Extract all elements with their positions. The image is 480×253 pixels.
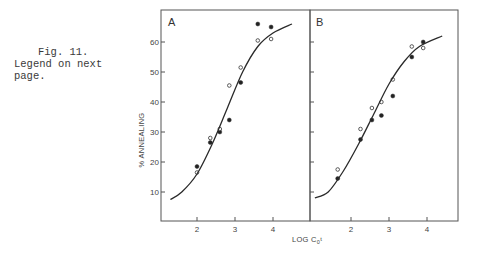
- open-data-point: [228, 84, 232, 88]
- panel-b-label: B: [316, 16, 323, 28]
- x-tick-label: 4: [425, 225, 430, 234]
- y-tick-label: 10: [150, 188, 159, 197]
- axis-ticks: 102030405060234234: [150, 38, 430, 234]
- open-data-point: [336, 168, 340, 172]
- fitted-curve: [170, 24, 292, 200]
- x-axis-title: LOG C0t: [292, 235, 322, 245]
- x-tick-label: 3: [233, 225, 238, 234]
- panel-b-plot: [315, 36, 442, 198]
- open-data-point: [421, 46, 425, 50]
- panel-a-plot: [170, 22, 292, 200]
- filled-data-point: [379, 114, 383, 118]
- filled-data-point: [227, 118, 231, 122]
- x-tick-label: 2: [195, 225, 200, 234]
- y-tick-label: 40: [150, 98, 159, 107]
- annealing-chart: A B % ANNEALING LOG C0t 1020304050602342…: [0, 0, 480, 253]
- y-tick-label: 30: [150, 128, 159, 137]
- filled-data-point: [410, 55, 414, 59]
- open-data-point: [410, 45, 414, 49]
- x-tick-label: 2: [349, 225, 354, 234]
- panel-a-frame: [161, 10, 310, 221]
- open-data-point: [256, 39, 260, 43]
- open-data-point: [239, 66, 243, 70]
- y-axis-title: % ANNEALING: [137, 113, 146, 168]
- y-tick-label: 20: [150, 158, 159, 167]
- x-tick-label: 3: [387, 225, 392, 234]
- open-data-point: [359, 127, 363, 131]
- open-data-point: [269, 37, 273, 41]
- filled-data-point: [256, 22, 260, 26]
- filled-data-point: [239, 81, 243, 85]
- filled-data-point: [391, 94, 395, 98]
- panel-b-frame: [310, 10, 458, 221]
- y-tick-label: 50: [150, 68, 159, 77]
- y-tick-label: 60: [150, 38, 159, 47]
- x-tick-label: 4: [271, 225, 276, 234]
- filled-data-point: [195, 165, 199, 169]
- open-data-point: [370, 106, 374, 110]
- fitted-curve: [315, 36, 442, 198]
- panel-a-label: A: [168, 16, 176, 28]
- filled-data-point: [269, 25, 273, 29]
- open-data-point: [209, 136, 213, 140]
